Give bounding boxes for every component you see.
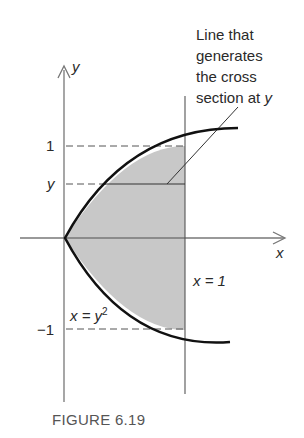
annotation-line-3: the cross bbox=[196, 66, 272, 87]
annotation-var: y bbox=[264, 89, 272, 106]
figure-caption: FIGURE 6.19 bbox=[52, 411, 145, 428]
curve-equation-lhs: x = y bbox=[70, 307, 102, 324]
x-axis-label: x bbox=[276, 244, 284, 261]
curve-equation-label: x = y2 bbox=[70, 303, 108, 324]
annotation-line-2: generates bbox=[196, 45, 272, 66]
curve-equation-exp: 2 bbox=[102, 306, 108, 317]
annotation-prefix: section at bbox=[196, 89, 264, 106]
annotation-text: Line that generates the cross section at… bbox=[196, 24, 272, 108]
tick-label-neg1: −1 bbox=[37, 321, 54, 338]
annotation-line-1: Line that bbox=[196, 24, 272, 45]
tick-label-1: 1 bbox=[46, 137, 54, 154]
vertical-line-label: x = 1 bbox=[193, 272, 226, 289]
y-axis-label: y bbox=[72, 58, 80, 75]
tick-label-y: y bbox=[47, 175, 55, 192]
figure: Line that generates the cross section at… bbox=[0, 0, 304, 438]
annotation-line-4: section at y bbox=[196, 87, 272, 108]
